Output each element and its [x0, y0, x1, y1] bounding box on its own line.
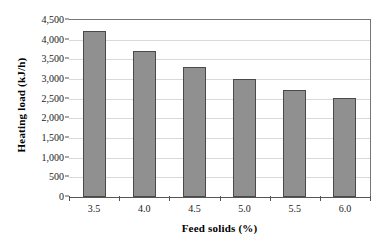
y-axis-tick-label: 500 — [49, 171, 64, 182]
plot-area — [69, 19, 371, 198]
y-axis-tick-label: 1,500 — [42, 132, 65, 143]
x-axis-tick-labels: 3.54.04.55.05.56.0 — [69, 203, 370, 219]
y-axis-tick-label: 4,500 — [42, 14, 65, 25]
bars-layer — [69, 20, 370, 197]
x-axis-tick-mark — [169, 196, 170, 201]
x-axis-tick-label: 4.0 — [138, 203, 151, 214]
y-axis-tick-label: 2,500 — [42, 92, 65, 103]
y-axis-tick-label: 3,500 — [42, 53, 65, 64]
bar — [83, 31, 106, 197]
y-axis-tick-labels: 05001,0001,5002,0002,5003,0003,5004,0004… — [28, 19, 64, 196]
bar — [283, 90, 306, 197]
bar — [333, 98, 356, 197]
x-axis-tick-label: 5.0 — [238, 203, 251, 214]
x-axis-tick-label: 5.5 — [289, 203, 302, 214]
x-axis-tick-label: 6.0 — [339, 203, 352, 214]
y-axis-tick-label: 2,000 — [42, 112, 65, 123]
bar — [183, 67, 206, 197]
y-axis-tick-label: 1,000 — [42, 151, 65, 162]
y-axis-tick-label: 3,000 — [42, 73, 65, 84]
x-axis-tick-label: 4.5 — [188, 203, 201, 214]
x-axis-title: Feed solids (%) — [69, 222, 370, 234]
bar-chart-figure: Heating load (kJ/h) 05001,0001,5002,0002… — [0, 0, 389, 243]
x-axis-tick-mark — [119, 196, 120, 201]
x-axis-tick-mark — [270, 196, 271, 201]
y-axis-tick-label: 0 — [59, 191, 64, 202]
x-axis-tick-mark — [320, 196, 321, 201]
x-axis-tick-mark — [220, 196, 221, 201]
bar — [133, 51, 156, 197]
x-axis-tick-mark — [69, 196, 70, 201]
y-axis-tick-label: 4,000 — [42, 33, 65, 44]
x-axis-tick-mark — [370, 196, 371, 201]
y-axis-title-label: Heating load (kJ/h) — [15, 58, 27, 153]
x-axis-tick-label: 3.5 — [88, 203, 101, 214]
bar — [233, 79, 256, 197]
